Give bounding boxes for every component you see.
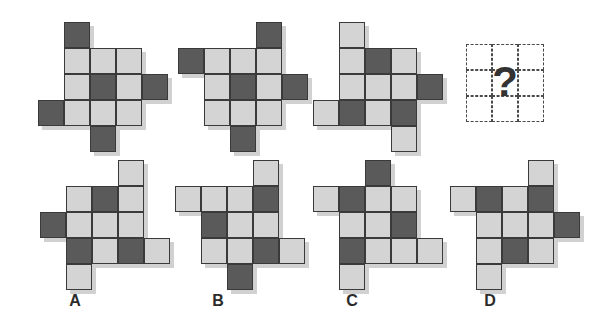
puzzle-cell-dark: [253, 186, 279, 212]
question-mark: ?: [466, 44, 544, 122]
puzzle-cell-light: [204, 48, 230, 74]
puzzle-cell-light: [92, 238, 118, 264]
question-placeholder[interactable]: ?: [466, 44, 544, 122]
puzzle-cell-light: [253, 212, 279, 238]
puzzle-cell-light: [339, 74, 365, 100]
puzzle-cell-light: [502, 212, 528, 238]
puzzle-cell-light: [391, 126, 417, 152]
puzzle-cell-dark: [66, 238, 92, 264]
puzzle-cell-dark: [142, 74, 168, 100]
puzzle-cell-light: [64, 100, 90, 126]
puzzle-cell-light: [391, 74, 417, 100]
puzzle-cell-light: [90, 100, 116, 126]
puzzle-cell-light: [64, 74, 90, 100]
puzzle-cell-light: [279, 238, 305, 264]
puzzle-cell-light: [66, 186, 92, 212]
puzzle-cell-light: [502, 186, 528, 212]
option-label-b: B: [198, 292, 238, 310]
puzzle-cell-dark: [118, 238, 144, 264]
puzzle-cell-light: [256, 74, 282, 100]
puzzle-cell-light: [528, 160, 554, 186]
puzzle-cell-light: [256, 100, 282, 126]
option-label-d: D: [470, 292, 510, 310]
puzzle-cell-light: [201, 238, 227, 264]
puzzle-cell-light: [313, 186, 339, 212]
puzzle-cell-light: [118, 212, 144, 238]
puzzle-cell-light: [476, 238, 502, 264]
option-label-a: A: [55, 292, 95, 310]
puzzle-cell-light: [175, 186, 201, 212]
puzzle-cell-dark: [365, 48, 391, 74]
puzzle-cell-light: [365, 238, 391, 264]
puzzle-cell-light: [256, 48, 282, 74]
puzzle-cell-light: [339, 212, 365, 238]
puzzle-cell-light: [365, 186, 391, 212]
puzzle-cell-light: [391, 48, 417, 74]
puzzle-cell-light: [230, 48, 256, 74]
puzzle-cell-light: [391, 186, 417, 212]
puzzle-cell-dark: [554, 212, 580, 238]
puzzle-cell-dark: [339, 100, 365, 126]
puzzle-cell-dark: [178, 48, 204, 74]
puzzle-cell-dark: [365, 160, 391, 186]
puzzle-cell-dark: [64, 22, 90, 48]
puzzle-cell-dark: [282, 74, 308, 100]
puzzle-cell-light: [116, 74, 142, 100]
puzzle-cell-dark: [528, 186, 554, 212]
puzzle-cell-dark: [230, 74, 256, 100]
puzzle-cell-light: [118, 186, 144, 212]
puzzle-cell-dark: [227, 264, 253, 290]
option-label-c: C: [332, 292, 372, 310]
puzzle-cell-dark: [201, 212, 227, 238]
puzzle-cell-dark: [256, 22, 282, 48]
puzzle-cell-light: [417, 238, 443, 264]
puzzle-cell-light: [66, 264, 92, 290]
puzzle-cell-light: [339, 264, 365, 290]
puzzle-cell-light: [116, 48, 142, 74]
puzzle-cell-dark: [502, 238, 528, 264]
puzzle-cell-light: [66, 212, 92, 238]
puzzle-cell-light: [365, 74, 391, 100]
puzzle-cell-light: [391, 238, 417, 264]
puzzle-cell-dark: [40, 212, 66, 238]
puzzle-cell-light: [64, 48, 90, 74]
puzzle-cell-light: [339, 22, 365, 48]
puzzle-cell-dark: [391, 100, 417, 126]
puzzle-cell-light: [116, 100, 142, 126]
puzzle-cell-light: [201, 186, 227, 212]
puzzle-cell-dark: [90, 74, 116, 100]
puzzle-cell-dark: [391, 212, 417, 238]
puzzle-cell-light: [476, 264, 502, 290]
puzzle-cell-light: [227, 186, 253, 212]
puzzle-cell-light: [450, 186, 476, 212]
puzzle-cell-dark: [253, 238, 279, 264]
puzzle-cell-light: [227, 212, 253, 238]
puzzle-cell-dark: [339, 238, 365, 264]
puzzle-cell-light: [118, 160, 144, 186]
puzzle-cell-dark: [417, 74, 443, 100]
puzzle-cell-dark: [476, 186, 502, 212]
puzzle-cell-light: [313, 100, 339, 126]
puzzle-cell-light: [90, 48, 116, 74]
puzzle-cell-light: [230, 100, 256, 126]
puzzle-cell-light: [365, 100, 391, 126]
puzzle-cell-dark: [339, 186, 365, 212]
puzzle-cell-dark: [230, 126, 256, 152]
puzzle-cell-light: [528, 238, 554, 264]
puzzle-cell-dark: [90, 126, 116, 152]
puzzle-cell-dark: [92, 186, 118, 212]
puzzle-cell-light: [92, 212, 118, 238]
puzzle-cell-light: [144, 238, 170, 264]
puzzle-canvas: ABCD?: [0, 0, 594, 321]
puzzle-cell-dark: [38, 100, 64, 126]
puzzle-cell-light: [339, 48, 365, 74]
puzzle-cell-light: [365, 212, 391, 238]
puzzle-cell-light: [476, 212, 502, 238]
puzzle-cell-light: [253, 160, 279, 186]
puzzle-cell-light: [204, 74, 230, 100]
puzzle-cell-light: [227, 238, 253, 264]
puzzle-cell-light: [204, 100, 230, 126]
puzzle-cell-light: [528, 212, 554, 238]
